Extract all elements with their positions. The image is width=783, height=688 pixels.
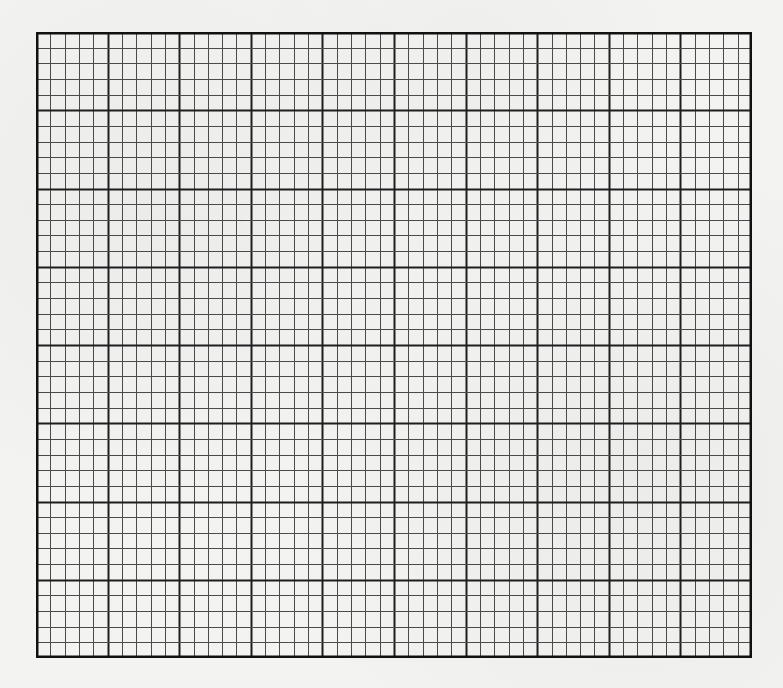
graph-paper-grid bbox=[36, 32, 752, 658]
grid-lines bbox=[36, 32, 752, 658]
